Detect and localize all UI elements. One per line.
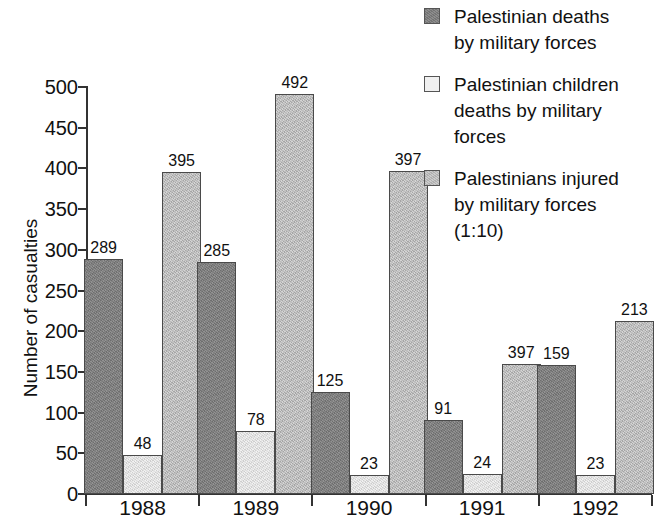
bar-value-label: 289 [74, 240, 133, 256]
y-axis-tick-label: 150 [6, 362, 78, 382]
bar-value-label: 285 [187, 243, 246, 259]
legend-item[interactable]: Palestinian children deaths by military … [424, 72, 656, 150]
dark-gray-swatch [424, 8, 440, 24]
bar-value-label: 159 [527, 346, 586, 362]
y-axis-tick-label: 100 [6, 403, 78, 423]
bar [197, 262, 236, 494]
y-axis-tick-label: 400 [6, 158, 78, 178]
medium-gray-swatch [424, 170, 440, 186]
bar [576, 475, 615, 494]
x-axis-label-1988: 1988 [87, 496, 199, 520]
y-axis-tick-label: 300 [6, 240, 78, 260]
bar-value-label: 24 [453, 455, 512, 471]
bar-value-label: 213 [605, 302, 656, 318]
bar-value-label: 492 [265, 75, 324, 91]
bar-value-label: 48 [113, 436, 172, 452]
x-axis-label-1990: 1990 [313, 496, 425, 520]
y-axis-tick [78, 86, 87, 88]
y-axis-tick [78, 167, 87, 169]
legend-item-label: Palestinians injured by military forces … [454, 166, 619, 244]
bar-value-label: 78 [226, 412, 285, 428]
y-axis-tick-label: 0 [6, 484, 78, 504]
y-axis-tick-label: 200 [6, 321, 78, 341]
chart-legend: Palestinian deaths by military forcesPal… [424, 4, 656, 260]
y-axis-tick-label: 50 [6, 443, 78, 463]
y-axis-tick-label: 350 [6, 199, 78, 219]
bar [389, 171, 428, 494]
x-axis-label-1992: 1992 [539, 496, 651, 520]
light-gray-swatch [424, 76, 440, 92]
bar-value-label: 395 [152, 153, 211, 169]
y-axis-tick [78, 208, 87, 210]
legend-item[interactable]: Palestinians injured by military forces … [424, 166, 656, 244]
bar-value-label: 23 [340, 456, 399, 472]
bar-chart-figure: Number of casualties 0501001502002503003… [0, 0, 656, 521]
bar [84, 259, 123, 494]
bar-value-label: 23 [566, 456, 625, 472]
legend-item-label: Palestinian deaths by military forces [454, 4, 609, 56]
bar [236, 431, 275, 494]
legend-item-label: Palestinian children deaths by military … [454, 72, 619, 150]
bar [275, 94, 314, 494]
bar [350, 475, 389, 494]
bar [537, 365, 576, 494]
bar [463, 474, 502, 494]
y-axis-tick [78, 127, 87, 129]
y-axis-tick-label: 450 [6, 118, 78, 138]
bar [123, 455, 162, 494]
bar [502, 364, 541, 494]
x-axis-label-1989: 1989 [200, 496, 312, 520]
legend-item[interactable]: Palestinian deaths by military forces [424, 4, 656, 56]
y-axis-tick-label: 250 [6, 281, 78, 301]
x-axis-label-1991: 1991 [426, 496, 538, 520]
y-axis-tick-label: 500 [6, 77, 78, 97]
bar [311, 392, 350, 494]
bar-value-label: 91 [414, 401, 473, 417]
bar-value-label: 125 [301, 373, 360, 389]
